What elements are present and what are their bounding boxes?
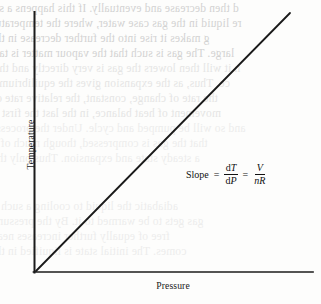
fraction-denominator-nR: nR — [252, 175, 267, 186]
fraction-numerator-dT: dT — [224, 163, 239, 175]
fraction-numerator-V: V — [255, 163, 265, 175]
figure-canvas: d then decrease and eventually. If this … — [0, 0, 321, 304]
variable-R: R — [259, 175, 265, 186]
variable-P: P — [230, 175, 236, 186]
data-line-temperature-vs-pressure — [36, 13, 290, 271]
plot-area — [0, 0, 321, 304]
fraction-dT-dP: dT dP — [223, 163, 238, 187]
variable-T: T — [231, 162, 237, 173]
fraction-V-nR: V nR — [252, 163, 267, 187]
fraction-denominator-dP: dP — [223, 175, 238, 186]
equals-sign-2: = — [243, 169, 249, 180]
y-axis-title: Temperature — [25, 130, 36, 170]
x-axis-title: Pressure — [142, 280, 204, 291]
slope-annotation: Slope = dT dP = V nR — [186, 163, 268, 187]
equals-sign-1: = — [214, 169, 220, 180]
slope-label: Slope — [186, 169, 209, 180]
